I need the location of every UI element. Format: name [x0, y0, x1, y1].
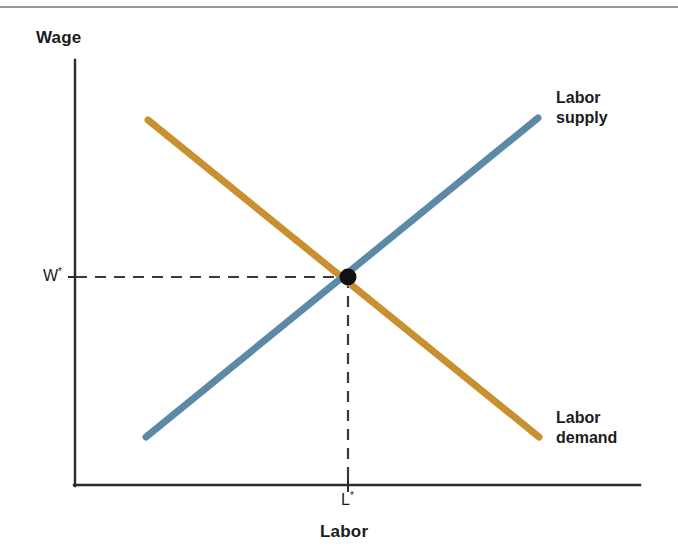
labor-demand-label-line2: demand [556, 428, 617, 448]
labor-supply-label: Labor supply [556, 88, 608, 127]
labor-supply-label-line2: supply [556, 108, 608, 128]
plot-area [0, 0, 678, 556]
labor-supply-label-line1: Labor [556, 88, 608, 108]
equilibrium-point-marker [340, 269, 357, 286]
y-axis-tick-label-equilibrium-wage: W* [43, 267, 62, 285]
x-tick-superscript: * [350, 490, 354, 501]
y-axis-title: Wage [36, 28, 82, 48]
x-axis-tick-label-equilibrium-labor: L* [341, 491, 354, 509]
x-axis-title: Labor [320, 522, 368, 542]
labor-market-equilibrium-figure: Wage Labor W* L* Labor supply Labor dema… [0, 0, 678, 556]
labor-demand-label: Labor demand [556, 408, 617, 447]
labor-demand-label-line1: Labor [556, 408, 617, 428]
y-tick-superscript: * [58, 266, 62, 277]
x-tick-base: L [341, 491, 350, 508]
y-tick-base: W [43, 267, 58, 284]
